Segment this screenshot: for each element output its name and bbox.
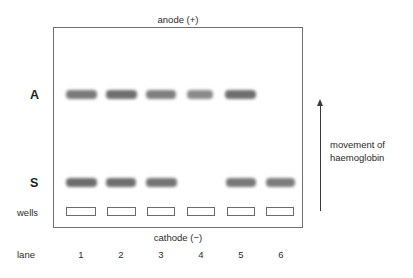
lane-number-6: 6 — [278, 249, 283, 260]
figure-canvas: anode (+) A S wells cathode (−) lane 123… — [0, 0, 413, 278]
well-lane-5 — [227, 207, 255, 216]
movement-caption-line2: haemoglobin — [330, 152, 410, 165]
well-lane-3 — [147, 207, 175, 216]
well-lane-4 — [187, 207, 215, 216]
movement-arrow-icon — [320, 105, 321, 211]
band-a-lane-1 — [66, 90, 97, 99]
band-s-lane-6 — [266, 178, 295, 187]
band-s-lane-5 — [226, 178, 256, 187]
lane-number-4: 4 — [198, 249, 203, 260]
band-a-lane-5 — [225, 90, 256, 99]
cathode-label: cathode (−) — [154, 232, 202, 244]
band-a-lane-3 — [146, 90, 176, 99]
band-s-lane-1 — [66, 178, 97, 187]
wells-label: wells — [17, 207, 38, 219]
lane-number-2: 2 — [118, 249, 123, 260]
movement-caption: movement of haemoglobin — [330, 139, 410, 164]
well-lane-1 — [66, 207, 96, 216]
lane-axis-label: lane — [17, 249, 35, 261]
gel-box — [53, 27, 303, 228]
lane-number-3: 3 — [158, 249, 163, 260]
anode-label: anode (+) — [158, 14, 199, 26]
well-lane-6 — [266, 207, 294, 216]
band-row-label-a: A — [30, 88, 39, 102]
band-s-lane-2 — [106, 178, 136, 187]
band-s-lane-3 — [146, 178, 177, 187]
band-row-label-s: S — [30, 176, 38, 190]
well-lane-2 — [107, 207, 136, 216]
lane-number-1: 1 — [78, 249, 83, 260]
movement-caption-line1: movement of — [330, 139, 410, 152]
lane-number-5: 5 — [238, 249, 243, 260]
band-a-lane-2 — [106, 90, 137, 99]
band-a-lane-4 — [187, 90, 213, 99]
